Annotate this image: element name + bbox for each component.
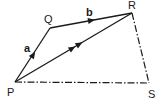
vector-label-b: b: [86, 6, 93, 18]
vector-diagram: P Q R S a b: [0, 0, 164, 105]
vector-label-a: a: [24, 42, 31, 54]
edge-ps: [15, 82, 149, 83]
edge-rs: [132, 13, 149, 83]
point-label-s: S: [148, 88, 155, 100]
point-label-p: P: [7, 86, 14, 98]
point-label-r: R: [128, 0, 136, 11]
point-label-q: Q: [44, 13, 53, 25]
